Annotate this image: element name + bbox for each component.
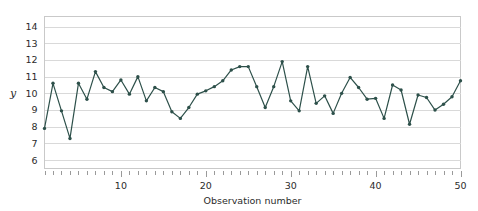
data-point-9 xyxy=(111,90,114,93)
data-point-5 xyxy=(77,82,80,85)
data-point-38 xyxy=(357,86,360,89)
data-point-40 xyxy=(374,97,377,100)
x-axis-ticks xyxy=(46,171,462,177)
data-point-24 xyxy=(238,65,241,68)
y-tick-label-8: 8 xyxy=(31,121,37,132)
data-point-25 xyxy=(247,65,250,68)
data-point-1 xyxy=(43,127,46,130)
x-tick-label-20: 20 xyxy=(200,180,212,191)
data-point-3 xyxy=(60,109,63,112)
data-point-23 xyxy=(230,68,233,71)
data-point-12 xyxy=(136,75,139,78)
data-point-20 xyxy=(204,89,207,92)
y-tick-label-10: 10 xyxy=(25,88,37,99)
data-point-22 xyxy=(221,79,224,82)
data-point-44 xyxy=(408,123,411,126)
data-point-39 xyxy=(365,97,368,100)
x-tick-label-10: 10 xyxy=(115,180,127,191)
data-point-19 xyxy=(196,92,199,95)
data-point-16 xyxy=(170,110,173,113)
data-point-8 xyxy=(102,86,105,89)
y-tick-label-6: 6 xyxy=(31,155,37,166)
data-point-47 xyxy=(433,108,436,111)
data-point-33 xyxy=(314,102,317,105)
data-point-29 xyxy=(281,60,284,63)
x-axis-title: Observation number xyxy=(204,195,302,206)
data-point-41 xyxy=(382,117,385,120)
data-point-21 xyxy=(213,85,216,88)
data-point-49 xyxy=(450,95,453,98)
data-point-43 xyxy=(399,88,402,91)
data-point-31 xyxy=(297,109,300,112)
x-tick-label-50: 50 xyxy=(454,180,466,191)
data-point-37 xyxy=(348,76,351,79)
line-chart: 14131211109876y1020304050Observation num… xyxy=(0,0,478,211)
data-point-26 xyxy=(255,85,258,88)
data-point-35 xyxy=(331,112,334,115)
x-axis-tick-labels: 1020304050 xyxy=(115,180,467,191)
data-point-11 xyxy=(128,92,131,95)
data-point-45 xyxy=(416,93,419,96)
data-point-42 xyxy=(391,83,394,86)
data-point-14 xyxy=(153,86,156,89)
data-point-6 xyxy=(85,97,88,100)
y-tick-label-7: 7 xyxy=(31,138,37,149)
data-point-27 xyxy=(264,106,267,109)
x-tick-label-30: 30 xyxy=(285,180,297,191)
y-tick-label-12: 12 xyxy=(25,54,37,65)
chart-container: 14131211109876y1020304050Observation num… xyxy=(0,0,478,211)
data-point-30 xyxy=(289,99,292,102)
data-point-28 xyxy=(272,85,275,88)
data-point-2 xyxy=(51,82,54,85)
data-point-50 xyxy=(459,79,462,82)
y-axis-title: y xyxy=(9,87,17,100)
data-point-4 xyxy=(68,137,71,140)
data-point-34 xyxy=(323,94,326,97)
plot-area-border xyxy=(45,17,461,169)
data-point-32 xyxy=(306,65,309,68)
data-point-17 xyxy=(179,117,182,120)
y-tick-label-9: 9 xyxy=(31,104,37,115)
data-point-18 xyxy=(187,106,190,109)
data-point-36 xyxy=(340,92,343,95)
y-axis-tick-labels: 14131211109876 xyxy=(25,21,37,166)
data-point-10 xyxy=(119,78,122,81)
data-point-48 xyxy=(442,102,445,105)
data-point-7 xyxy=(94,70,97,73)
y-tick-label-11: 11 xyxy=(25,71,37,82)
data-point-46 xyxy=(425,96,428,99)
y-tick-label-13: 13 xyxy=(25,38,37,49)
data-point-15 xyxy=(162,90,165,93)
data-point-13 xyxy=(145,99,148,102)
x-tick-label-40: 40 xyxy=(370,180,382,191)
y-tick-label-14: 14 xyxy=(25,21,37,32)
